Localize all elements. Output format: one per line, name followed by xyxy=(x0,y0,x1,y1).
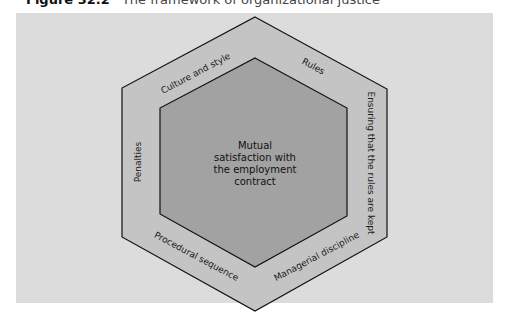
center-line-1: Mutual xyxy=(238,140,272,151)
segment-ensuring-rules-kept: Ensuring that the rules are kept xyxy=(366,91,376,235)
center-line-2: satisfaction with xyxy=(214,152,296,163)
center-line-4: contract xyxy=(234,176,276,187)
segment-penalties: Penalties xyxy=(133,141,143,182)
center-line-3: the employment xyxy=(214,164,297,175)
organizational-justice-diagram: Culture and style Rules Ensuring that th… xyxy=(0,0,511,321)
